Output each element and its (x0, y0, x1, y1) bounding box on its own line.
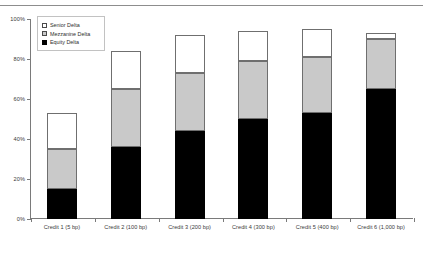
y-axis-tick-label: 60% (14, 96, 26, 102)
bar-segment-equity[interactable] (366, 89, 396, 219)
legend-item-mezzanine: Mezzanine Delta (42, 30, 100, 37)
y-axis-tick-label: 80% (14, 56, 26, 62)
bar-segment-senior[interactable] (111, 51, 141, 89)
bar-segment-equity[interactable] (175, 131, 205, 219)
legend-item-senior: Senior Delta (42, 22, 100, 29)
bar-segment-mezzanine[interactable] (366, 39, 396, 89)
equity-swatch-icon (42, 40, 47, 45)
bar-segment-mezzanine[interactable] (47, 149, 77, 189)
legend-label-equity: Equity Delta (50, 39, 79, 45)
bar-segment-equity[interactable] (111, 147, 141, 219)
x-axis-category-label: Credit 3 (200 bp) (168, 224, 211, 230)
y-axis-tick-label: 40% (14, 136, 26, 142)
bar-segment-senior[interactable] (175, 35, 205, 73)
mezzanine-swatch-icon (42, 31, 47, 36)
y-axis-tick-label: 0% (17, 216, 25, 222)
x-axis-category-label: Credit 6 (1,000 bp) (357, 224, 405, 230)
page-top-rule (0, 5, 423, 6)
bar-segment-mezzanine[interactable] (111, 89, 141, 147)
senior-swatch-icon (42, 23, 47, 28)
legend-item-equity: Equity Delta (42, 39, 100, 46)
bar-segment-mezzanine[interactable] (238, 61, 268, 119)
x-axis-tick (414, 218, 415, 222)
bar-segment-senior[interactable] (302, 29, 332, 57)
bar-segment-mezzanine[interactable] (302, 57, 332, 113)
chart-legend: Senior Delta Mezzanine Delta Equity Delt… (37, 16, 105, 51)
x-axis-category-label: Credit 4 (300 bp) (232, 224, 275, 230)
y-axis-tick-label: 100% (10, 16, 25, 22)
x-axis-category-label: Credit 1 (5 bp) (44, 224, 81, 230)
legend-label-mezzanine: Mezzanine Delta (50, 31, 90, 37)
y-axis-tick-label: 20% (14, 176, 26, 182)
bar-segment-senior[interactable] (366, 33, 396, 39)
bar-segment-equity[interactable] (238, 119, 268, 219)
bar-segment-mezzanine[interactable] (175, 73, 205, 131)
stacked-bar-chart: 0%20%40%60%80%100% Credit 1 (5 bp)Credit… (0, 0, 423, 253)
bar-segment-equity[interactable] (47, 189, 77, 219)
x-axis-category-label: Credit 5 (400 bp) (296, 224, 339, 230)
bar-segment-senior[interactable] (238, 31, 268, 61)
bar-segment-equity[interactable] (302, 113, 332, 219)
x-axis-category-label: Credit 2 (100 bp) (104, 224, 147, 230)
legend-label-senior: Senior Delta (50, 22, 80, 28)
bar-segment-senior[interactable] (47, 113, 77, 149)
